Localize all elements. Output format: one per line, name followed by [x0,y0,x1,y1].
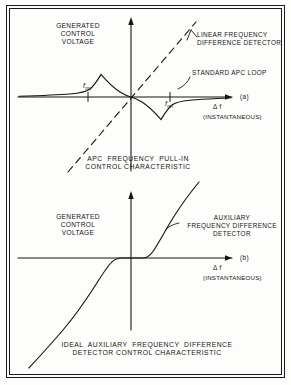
panel-a-x-axis-label: Δ f [213,103,222,111]
panel-b-x-axis-label: Δ f [213,264,222,272]
panel-a-tick-label-right: fnn [165,100,172,109]
figure-root: GENERATED CONTROL VOLTAGE LINEAR FREQUEN… [0,0,291,385]
panel-a-identifier: (a) [240,93,249,101]
panel-b-auxiliary-detector-callout: AUXILIARY FREQUENCY DIFFERENCE DETECTOR [180,214,284,237]
panel-a-y-axis-title: GENERATED CONTROL VOLTAGE [50,22,106,46]
panel-b-y-axis [128,191,133,330]
panel-a-standard-apc-callout: STANDARD APC LOOP [192,69,288,77]
panel-a-tick-label-left: fnn [83,82,90,91]
panel-b-identifier: (b) [240,254,249,262]
panel-a-standard-callout-leader [178,77,190,89]
figure-graphics [0,0,291,385]
panel-a-caption: APC FREQUENCY PULL-IN CONTROL CHARACTERI… [76,155,200,172]
panel-a-y-axis [128,17,133,171]
panel-b-x-axis-sublabel: (INSTANTANEOUS) [203,274,262,282]
panel-a-linear-detector-callout: LINEAR FREQUENCY DIFFERENCE DETECTOR [197,31,289,47]
panel-b-caption: IDEAL AUXILIARY FREQUENCY DIFFERENCE DET… [58,341,236,358]
panel-a-x-axis-sublabel: (INSTANTANEOUS) [203,113,262,121]
panel-b-y-axis-title: GENERATED CONTROL VOLTAGE [50,213,106,237]
